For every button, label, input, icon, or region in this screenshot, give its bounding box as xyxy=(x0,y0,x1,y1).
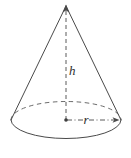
radius-label: r xyxy=(84,112,90,127)
left-slant-edge xyxy=(11,6,66,120)
base-ellipse-visible-arc xyxy=(11,120,121,139)
height-label: h xyxy=(69,63,76,78)
cone-svg-canvas: h r xyxy=(0,0,131,158)
cone-diagram-figure: h r xyxy=(0,0,131,158)
base-center-point xyxy=(64,118,68,122)
